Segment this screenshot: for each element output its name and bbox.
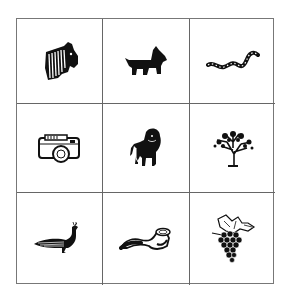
cell-lion[interactable]: lion bbox=[103, 104, 190, 193]
pipe-icon bbox=[119, 224, 173, 254]
cell-dog[interactable]: scottish terrier dog bbox=[103, 19, 190, 104]
camera-icon bbox=[37, 132, 83, 164]
picture-grid: zebra scottish terrier dog snake bbox=[16, 18, 274, 284]
cell-peacock[interactable]: peacock bbox=[17, 193, 103, 285]
cell-zebra[interactable]: zebra bbox=[17, 19, 103, 104]
snake-icon bbox=[206, 49, 260, 73]
cell-pipe[interactable]: smoking pipe bbox=[103, 193, 190, 285]
cell-tree[interactable]: tree bbox=[190, 104, 275, 193]
peacock-icon bbox=[32, 222, 88, 256]
cell-camera[interactable]: camera bbox=[17, 104, 103, 193]
zebra-icon bbox=[40, 38, 80, 84]
lion-icon bbox=[126, 126, 166, 170]
grapes-icon bbox=[208, 213, 258, 265]
tree-icon bbox=[211, 128, 255, 168]
dog-icon bbox=[123, 44, 169, 78]
cell-grapes[interactable]: grapes bbox=[190, 193, 275, 285]
cell-snake[interactable]: snake bbox=[190, 19, 275, 104]
